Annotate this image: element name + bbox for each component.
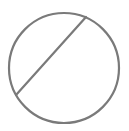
- circle-slash-icon: [0, 0, 129, 131]
- prohibited-icon-container: [0, 0, 129, 131]
- circle-outline: [9, 13, 119, 123]
